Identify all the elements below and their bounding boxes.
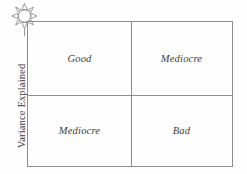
quadrant-matrix: Good Mediocre Mediocre Bad: [27, 21, 233, 167]
quadrant-figure: Variance Explained: [0, 0, 247, 174]
quadrant-bottom-right: Bad: [131, 95, 232, 166]
quadrant-top-left: Good: [28, 22, 131, 95]
quadrant-bottom-left-label: Mediocre: [59, 125, 100, 136]
quadrant-top-right: Mediocre: [131, 22, 232, 95]
quadrant-bottom-right-label: Bad: [173, 125, 191, 136]
quadrant-bottom-left: Mediocre: [28, 95, 131, 166]
quadrant-top-right-label: Mediocre: [161, 53, 202, 64]
quadrant-top-left-label: Good: [67, 53, 91, 64]
